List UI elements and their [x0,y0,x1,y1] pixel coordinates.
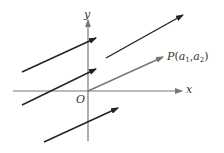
y-axis-label: y [84,9,90,20]
vector-arrow-5 [44,108,118,142]
paren-close: ) [204,50,208,63]
diagram-svg [0,0,224,153]
vector-arrow-1 [22,38,96,72]
vector-diagram: y x O P(a1,a2) [0,0,224,153]
x-axis-label: x [186,84,192,95]
point-p-label: P(a1,a2) [167,51,209,64]
vector-op-arrow [88,57,163,91]
origin-label: O [76,94,85,105]
